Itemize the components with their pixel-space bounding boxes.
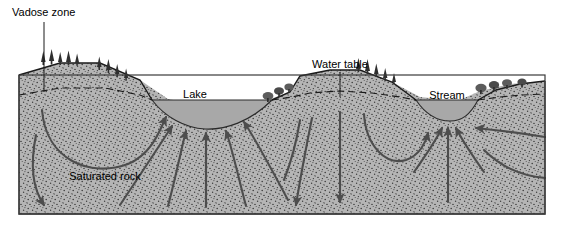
groundwater-flow-diagram: Vadose zone Lake Water table Stream Satu… xyxy=(0,0,561,238)
label-lake: Lake xyxy=(183,88,207,100)
label-stream: Stream xyxy=(429,89,464,101)
label-water-table: Water table xyxy=(312,58,368,70)
label-vadose-zone: Vadose zone xyxy=(12,6,75,18)
label-saturated-rock: Saturated rock xyxy=(69,170,141,182)
